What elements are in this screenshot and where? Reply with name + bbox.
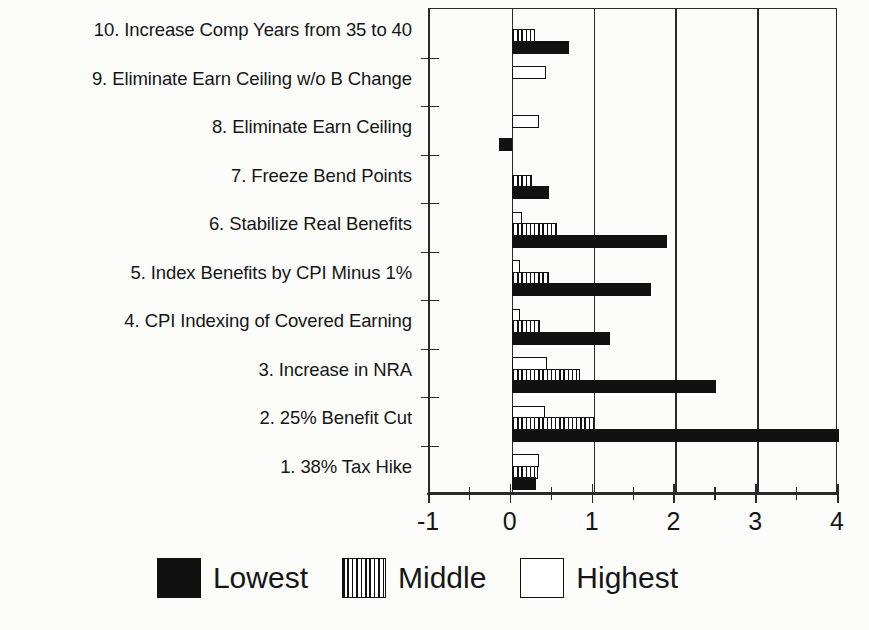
legend-label: Lowest: [213, 561, 308, 595]
x-axis-tick-minor: [469, 487, 470, 500]
x-axis-tick-major: [673, 484, 675, 503]
category-label: 9. Eliminate Earn Ceiling w/o B Change: [0, 68, 412, 90]
bar-group: [430, 300, 836, 349]
legend-swatch-highest: [520, 558, 564, 598]
x-axis-tick-major: [428, 484, 430, 503]
x-axis: -101234: [428, 493, 837, 494]
bar-lowest: [512, 429, 839, 442]
x-axis-tick-minor: [714, 487, 715, 500]
x-axis-tick-major: [755, 484, 757, 503]
bar-group: [430, 203, 836, 252]
x-axis-tick-label: 1: [562, 507, 622, 536]
bar-highest: [512, 66, 546, 79]
category-label: 7. Freeze Bend Points: [0, 165, 412, 187]
category-label: 2. 25% Benefit Cut: [0, 407, 412, 429]
bar-highest: [512, 115, 539, 128]
category-label: 3. Increase in NRA: [0, 359, 412, 381]
bar-lowest: [512, 332, 610, 345]
legend-label: Middle: [398, 561, 486, 595]
x-axis-tick-label: -1: [398, 507, 458, 536]
chart-figure: 1. 38% Tax Hike2. 25% Benefit Cut3. Incr…: [0, 0, 869, 630]
x-axis-tick-label: 0: [480, 507, 540, 536]
category-label-column: 1. 38% Tax Hike2. 25% Benefit Cut3. Incr…: [0, 8, 420, 493]
x-axis-tick-major: [837, 484, 839, 503]
category-label: 6. Stabilize Real Benefits: [0, 213, 412, 235]
bar-lowest: [499, 138, 512, 151]
legend-label: Highest: [576, 561, 678, 595]
bar-group: [430, 349, 836, 398]
legend-entry-highest[interactable]: Highest: [520, 558, 712, 598]
chart-legend: LowestMiddleHighest: [0, 558, 869, 598]
category-label: 10. Increase Comp Years from 35 to 40: [0, 19, 412, 41]
category-label: 1. 38% Tax Hike: [0, 456, 412, 478]
legend-swatch-lowest: [157, 558, 201, 598]
bar-lowest: [512, 283, 651, 296]
x-axis-tick-major: [510, 484, 512, 503]
category-label: 8. Eliminate Earn Ceiling: [0, 116, 412, 138]
category-label: 5. Index Benefits by CPI Minus 1%: [0, 262, 412, 284]
x-axis-tick-minor: [551, 487, 552, 500]
legend-entry-lowest[interactable]: Lowest: [157, 558, 342, 598]
bar-group: [430, 155, 836, 204]
legend-swatch-middle: [342, 558, 386, 598]
bar-lowest: [512, 41, 569, 54]
x-axis-tick-label: 3: [725, 507, 785, 536]
bar-group: [430, 106, 836, 155]
legend-entry-middle[interactable]: Middle: [342, 558, 520, 598]
x-axis-tick-label: 2: [643, 507, 703, 536]
bar-lowest: [512, 477, 537, 490]
bar-lowest: [512, 186, 549, 199]
x-axis-tick-minor: [796, 487, 797, 500]
category-label: 4. CPI Indexing of Covered Earning: [0, 310, 412, 332]
bar-lowest: [512, 380, 717, 393]
x-axis-tick-major: [592, 484, 594, 503]
bar-lowest: [512, 235, 667, 248]
x-axis-tick-minor: [633, 487, 634, 500]
bar-group: [430, 58, 836, 107]
bar-group: [430, 252, 836, 301]
plot-area: [428, 8, 837, 493]
bar-group: [430, 397, 836, 446]
x-axis-tick-label: 4: [807, 507, 867, 536]
bar-group: [430, 9, 836, 58]
